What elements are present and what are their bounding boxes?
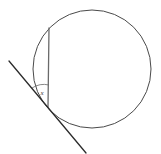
diagram-background bbox=[0, 0, 161, 154]
geometry-diagram-canvas: x bbox=[0, 0, 161, 154]
geometry-figure: x bbox=[0, 0, 161, 154]
